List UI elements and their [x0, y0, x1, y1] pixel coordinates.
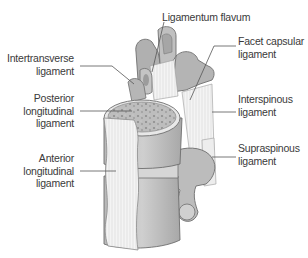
- label-line: Ligamentum flavum: [162, 11, 250, 24]
- label-line: ligament: [238, 106, 293, 119]
- label-supraspinous-ligament: Supraspinous ligament: [238, 142, 300, 167]
- label-facet-capsular-ligament: Facet capsular ligament: [238, 35, 304, 60]
- label-line: Facet capsular: [238, 35, 304, 48]
- label-line: Supraspinous: [238, 142, 300, 155]
- label-line: ligament: [238, 155, 300, 168]
- label-anterior-longitudinal-ligament: Anterior longitudinal ligament: [23, 152, 74, 190]
- label-line: longitudinal: [23, 105, 74, 118]
- label-ligamentum-flavum: Ligamentum flavum: [162, 11, 250, 24]
- upper-vertebra: [128, 27, 178, 102]
- label-line: longitudinal: [23, 165, 74, 178]
- label-line: Anterior: [23, 152, 74, 165]
- label-line: ligament: [238, 48, 304, 61]
- label-line: ligament: [23, 177, 74, 190]
- label-line: ligament: [23, 117, 74, 130]
- spinal-ligaments-diagram: Ligamentum flavum Intertransverse ligame…: [0, 0, 308, 258]
- label-posterior-longitudinal-ligament: Posterior longitudinal ligament: [23, 92, 74, 130]
- label-line: Intertransverse: [7, 52, 74, 65]
- anterior-ligament-band: [104, 118, 139, 250]
- label-line: ligament: [7, 65, 74, 78]
- label-interspinous-ligament: Interspinous ligament: [238, 93, 293, 118]
- label-intertransverse-ligament: Intertransverse ligament: [7, 52, 74, 77]
- label-line: Interspinous: [238, 93, 293, 106]
- label-line: Posterior: [23, 92, 74, 105]
